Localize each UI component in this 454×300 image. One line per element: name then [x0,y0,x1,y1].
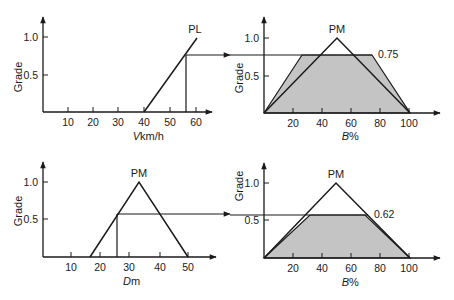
chart-distance-pm: 1.0 0.5 Grade 10 20 30 40 50 D m PM [12,162,230,287]
y-axis-label: Grade [233,63,245,94]
x-tick-label: 100 [400,262,418,274]
set-label-pl: PL [188,23,201,35]
y-tick-label: 1.0 [23,176,38,188]
clip-value-label: 0.62 [374,208,395,220]
x-tick-label: 50 [182,261,194,273]
x-tick-label: 40 [316,117,328,129]
x-tick-label: 40 [154,261,166,273]
x-tick-label: 50 [164,116,176,128]
membership-pm-d [90,182,188,257]
x-tick-label: 30 [123,261,135,273]
x-axis-var: B [342,130,349,142]
x-tick-label: 80 [374,117,386,129]
set-label-pm: PM [328,168,345,180]
chart-brake-pm-bottom: 1.0 0.5 Grade 20 40 60 80 100 B % PM 0.6… [230,163,440,288]
y-tick-label: 1.0 [23,31,38,43]
x-axis-var: D [123,275,131,287]
x-axis-unit: km/h [140,130,164,142]
set-label-pm: PM [329,23,346,35]
y-axis-label: Grade [233,171,245,202]
x-tick-label: 80 [374,262,386,274]
y-axis-label: Grade [12,62,24,93]
x-axis-unit: m [131,275,140,287]
x-tick-label: 10 [65,261,77,273]
x-tick-label: 20 [94,261,106,273]
x-tick-label: 60 [345,117,357,129]
chart-brake-pm-top: 1.0 0.5 Grade 20 40 60 80 100 B % PM 0.7… [230,17,440,142]
set-label-pm: PM [131,167,148,179]
y-tick-label: 0.5 [244,70,259,82]
clipped-area-075 [264,55,410,113]
x-tick-label: 40 [138,116,150,128]
x-tick-label: 20 [87,116,99,128]
y-axis-label: Grade [12,196,24,227]
membership-pl [144,38,197,112]
x-axis-var: B [342,276,349,288]
x-ticks [71,252,188,257]
y-tick-label: 1.0 [244,32,259,44]
y-tick-label: 0.5 [23,69,38,81]
clip-value-label: 0.75 [378,48,399,60]
x-tick-label: 20 [287,262,299,274]
x-tick-label: 60 [190,116,202,128]
x-tick-label: 10 [62,116,74,128]
fuzzy-inference-figure: 1.0 0.5 Grade 10 20 30 40 50 60 V km/h P… [0,0,454,300]
x-tick-label: 60 [345,262,357,274]
x-tick-label: 30 [112,116,124,128]
y-tick-label: 1.0 [244,177,259,189]
y-tick-label: 0.5 [23,213,38,225]
x-tick-label: 20 [287,117,299,129]
chart-speed-pl: 1.0 0.5 Grade 10 20 30 40 50 60 V km/h P… [12,17,230,142]
x-tick-label: 100 [400,117,418,129]
x-axis-unit: % [349,276,359,288]
y-tick-label: 0.5 [244,214,259,226]
x-axis-unit: % [349,130,359,142]
x-tick-label: 40 [316,262,328,274]
x-ticks [68,107,196,112]
